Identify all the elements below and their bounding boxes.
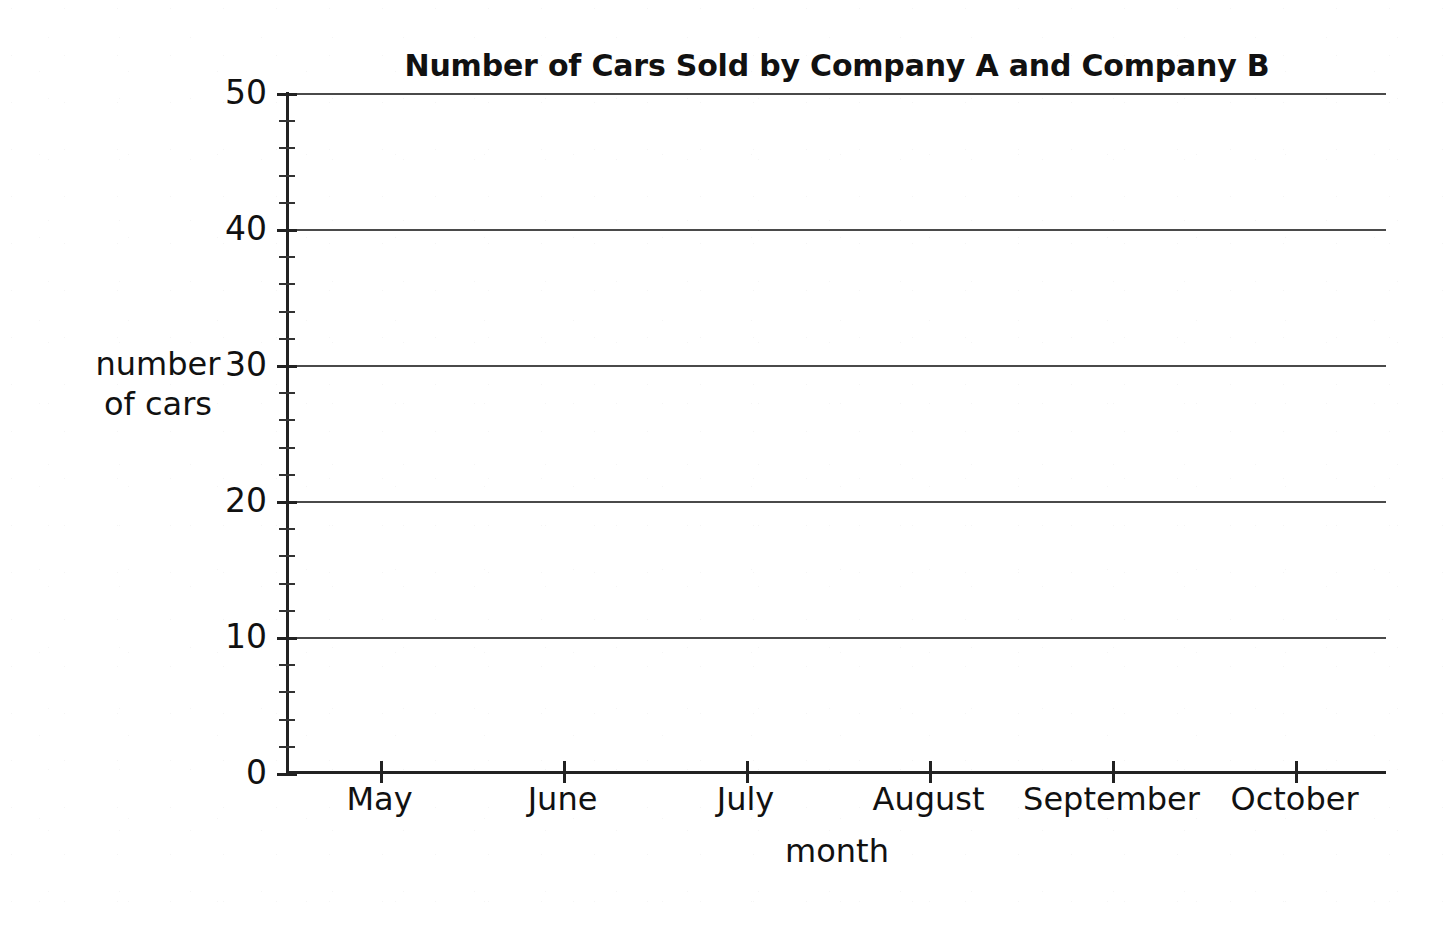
y-minor-tick bbox=[279, 719, 295, 721]
y-minor-tick bbox=[279, 447, 295, 449]
y-tick-40 bbox=[277, 229, 297, 232]
y-axis-title: number of cars bbox=[58, 344, 258, 424]
x-tick-label-may: May bbox=[346, 783, 412, 817]
y-tick-30 bbox=[277, 365, 297, 368]
chart-figure: Number of Cars Sold by Company A and Com… bbox=[0, 0, 1449, 929]
y-tick-10 bbox=[277, 637, 297, 640]
y-tick-50 bbox=[277, 93, 297, 96]
y-tick-label-20: 20 bbox=[225, 484, 267, 517]
y-minor-tick bbox=[279, 338, 295, 340]
x-tick-label-august: August bbox=[873, 783, 985, 817]
y-minor-tick bbox=[279, 419, 295, 421]
y-minor-tick bbox=[279, 691, 295, 693]
chart-title: Number of Cars Sold by Company A and Com… bbox=[288, 48, 1386, 83]
y-minor-tick bbox=[279, 664, 295, 666]
gridline-20 bbox=[288, 501, 1386, 503]
y-minor-tick bbox=[279, 311, 295, 313]
x-tick-label-july: July bbox=[717, 783, 775, 817]
y-minor-tick bbox=[279, 555, 295, 557]
y-axis-title-line-1: number bbox=[58, 344, 258, 384]
y-tick-20 bbox=[277, 501, 297, 504]
x-axis-line bbox=[286, 771, 1386, 774]
y-tick-0 bbox=[277, 773, 297, 776]
y-axis-title-line-2: of cars bbox=[58, 384, 258, 424]
x-tick-label-september: September bbox=[1023, 783, 1200, 817]
y-minor-tick bbox=[279, 283, 295, 285]
y-minor-tick bbox=[279, 256, 295, 258]
y-minor-tick bbox=[279, 202, 295, 204]
y-tick-label-10: 10 bbox=[225, 620, 267, 653]
y-minor-tick bbox=[279, 746, 295, 748]
y-minor-tick bbox=[279, 474, 295, 476]
y-minor-tick bbox=[279, 528, 295, 530]
y-tick-label-50: 50 bbox=[225, 76, 267, 109]
gridline-50 bbox=[288, 93, 1386, 95]
y-minor-tick bbox=[279, 120, 295, 122]
x-tick-label-october: October bbox=[1230, 783, 1358, 817]
y-minor-tick bbox=[279, 147, 295, 149]
y-minor-tick bbox=[279, 392, 295, 394]
y-minor-tick bbox=[279, 583, 295, 585]
gridline-10 bbox=[288, 637, 1386, 639]
gridline-40 bbox=[288, 229, 1386, 231]
plot-area bbox=[288, 93, 1386, 773]
gridline-30 bbox=[288, 365, 1386, 367]
x-tick-label-june: June bbox=[528, 783, 598, 817]
y-tick-label-40: 40 bbox=[225, 212, 267, 245]
x-axis-title: month bbox=[288, 832, 1386, 870]
y-minor-tick bbox=[279, 610, 295, 612]
y-tick-label-0: 0 bbox=[246, 756, 267, 789]
y-axis-line bbox=[286, 92, 289, 775]
y-minor-tick bbox=[279, 175, 295, 177]
